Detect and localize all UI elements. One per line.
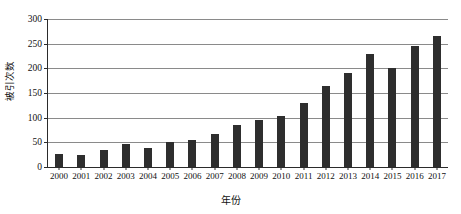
x-tick-label: 2013 (339, 171, 357, 181)
y-axis-title: 被引次数 (2, 46, 16, 116)
x-tick-label: 2007 (206, 171, 224, 181)
x-tick-mark (170, 167, 171, 170)
bar (322, 86, 330, 167)
y-tick-label: 200 (28, 63, 42, 73)
x-tick-mark (59, 167, 60, 170)
bar (411, 46, 419, 167)
x-tick-mark (392, 167, 393, 170)
x-tick-label: 2008 (228, 171, 246, 181)
y-tick-label: 250 (28, 39, 42, 49)
bar (366, 54, 374, 167)
x-tick-mark (325, 167, 326, 170)
x-tick-mark (436, 167, 437, 170)
bar (144, 148, 152, 167)
bar (433, 36, 441, 167)
x-tick-label: 2014 (361, 171, 379, 181)
bar-group: 2014 (359, 19, 381, 167)
x-tick-label: 2016 (406, 171, 424, 181)
bar-group: 2000 (48, 19, 70, 167)
bar-group: 2011 (292, 19, 314, 167)
bar-group: 2007 (204, 19, 226, 167)
bar-group: 2006 (181, 19, 203, 167)
bar-group: 2003 (115, 19, 137, 167)
x-tick-label: 2012 (317, 171, 335, 181)
x-axis-title: 年份 (0, 192, 461, 207)
bar-group: 2015 (381, 19, 403, 167)
x-tick-mark (370, 167, 371, 170)
bar (344, 73, 352, 167)
x-tick-mark (103, 167, 104, 170)
bar (55, 154, 63, 167)
x-tick-label: 2005 (161, 171, 179, 181)
bar-group: 2012 (315, 19, 337, 167)
bar-group: 2009 (248, 19, 270, 167)
x-tick-mark (214, 167, 215, 170)
x-tick-mark (125, 167, 126, 170)
citation-count-bar-chart: 被引次数 050100150200250300 2000200120022003… (0, 0, 461, 214)
bar (166, 142, 174, 167)
bar-group: 2004 (137, 19, 159, 167)
bar-group: 2016 (404, 19, 426, 167)
x-tick-label: 2003 (117, 171, 135, 181)
x-tick-mark (236, 167, 237, 170)
x-tick-label: 2004 (139, 171, 157, 181)
bar (100, 150, 108, 167)
x-tick-label: 2011 (295, 171, 313, 181)
x-tick-label: 2010 (272, 171, 290, 181)
bar (233, 125, 241, 167)
x-tick-label: 2000 (50, 171, 68, 181)
y-tick-label: 100 (28, 113, 42, 123)
x-tick-mark (281, 167, 282, 170)
bar-group: 2001 (70, 19, 92, 167)
x-tick-mark (147, 167, 148, 170)
x-tick-mark (414, 167, 415, 170)
plot-area: 050100150200250300 200020012002200320042… (47, 19, 448, 168)
x-tick-label: 2009 (250, 171, 268, 181)
y-tick-label: 50 (33, 137, 43, 147)
bar-group: 2010 (270, 19, 292, 167)
bar (300, 103, 308, 167)
y-tick-label: 0 (37, 162, 42, 172)
y-tick-label: 300 (28, 14, 42, 24)
bar (188, 140, 196, 167)
bar-group: 2005 (159, 19, 181, 167)
bar-group: 2008 (226, 19, 248, 167)
y-tick-mark (44, 167, 48, 168)
x-tick-label: 2002 (95, 171, 113, 181)
y-tick-label: 150 (28, 88, 42, 98)
bar-group: 2017 (426, 19, 448, 167)
x-tick-label: 2017 (428, 171, 446, 181)
bar-group: 2002 (92, 19, 114, 167)
x-tick-mark (259, 167, 260, 170)
bar (122, 144, 130, 167)
x-tick-mark (347, 167, 348, 170)
x-tick-label: 2001 (72, 171, 90, 181)
bar (255, 120, 263, 167)
x-tick-label: 2015 (383, 171, 401, 181)
bar (277, 116, 285, 167)
bar-group: 2013 (337, 19, 359, 167)
x-tick-mark (303, 167, 304, 170)
x-tick-mark (192, 167, 193, 170)
bar (388, 68, 396, 167)
x-tick-mark (81, 167, 82, 170)
bar (211, 134, 219, 167)
x-tick-label: 2006 (183, 171, 201, 181)
bar (77, 155, 85, 167)
